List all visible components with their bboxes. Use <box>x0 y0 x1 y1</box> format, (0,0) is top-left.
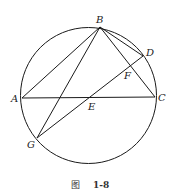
label-E: E <box>87 101 96 112</box>
label-A: A <box>10 93 18 104</box>
segment-BG <box>37 27 100 138</box>
label-C: C <box>158 92 166 103</box>
segment-BA <box>22 27 100 98</box>
label-F: F <box>123 70 132 81</box>
caption-number: 1-8 <box>93 180 109 190</box>
geometry-diagram: A B C D E F G 图 1-8 <box>0 0 175 193</box>
segment-BD <box>100 27 143 56</box>
label-D: D <box>145 47 154 58</box>
caption-prefix: 图 <box>71 180 80 190</box>
segment-BC <box>100 27 155 97</box>
label-B: B <box>95 14 103 25</box>
label-G: G <box>27 139 35 150</box>
